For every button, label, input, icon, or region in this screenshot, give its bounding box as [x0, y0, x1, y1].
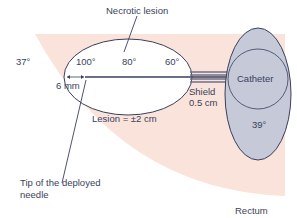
distance-label: 6 mm [56, 80, 80, 91]
tissue-temp-label: 37° [16, 56, 31, 67]
temp-60-label: 60° [165, 56, 180, 67]
catheter-temp-label: 39° [252, 119, 267, 130]
shield-size-label: 0.5 cm [189, 97, 218, 108]
temp-80-label: 80° [122, 56, 137, 67]
rectum-label: Rectum [235, 205, 268, 216]
catheter-label: Catheter [237, 73, 273, 84]
needle-tip-label-2: needle [20, 189, 49, 200]
ablation-diagram: Necrotic lesion 37° 100° 80° 60° 6 mm Sh… [0, 0, 297, 218]
needle-tip-label: Tip of the deployed [20, 177, 100, 188]
lesion-size-label: Lesion = ±2 cm [92, 113, 157, 124]
temp-100-label: 100° [76, 56, 96, 67]
necrotic-lesion-label: Necrotic lesion [106, 5, 168, 16]
shield-label: Shield [189, 86, 215, 97]
